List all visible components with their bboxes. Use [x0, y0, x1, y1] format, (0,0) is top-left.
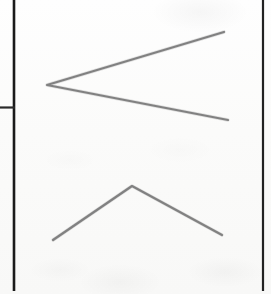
lower-caret-chevron: [53, 186, 222, 240]
scanned-page: [0, 0, 271, 294]
upper-left-chevron-halo: [47, 32, 228, 120]
upper-left-chevron: [47, 32, 228, 120]
lower-caret-chevron-path: [53, 186, 222, 240]
figure-canvas: [0, 0, 271, 294]
lower-caret-chevron-halo: [53, 186, 222, 240]
